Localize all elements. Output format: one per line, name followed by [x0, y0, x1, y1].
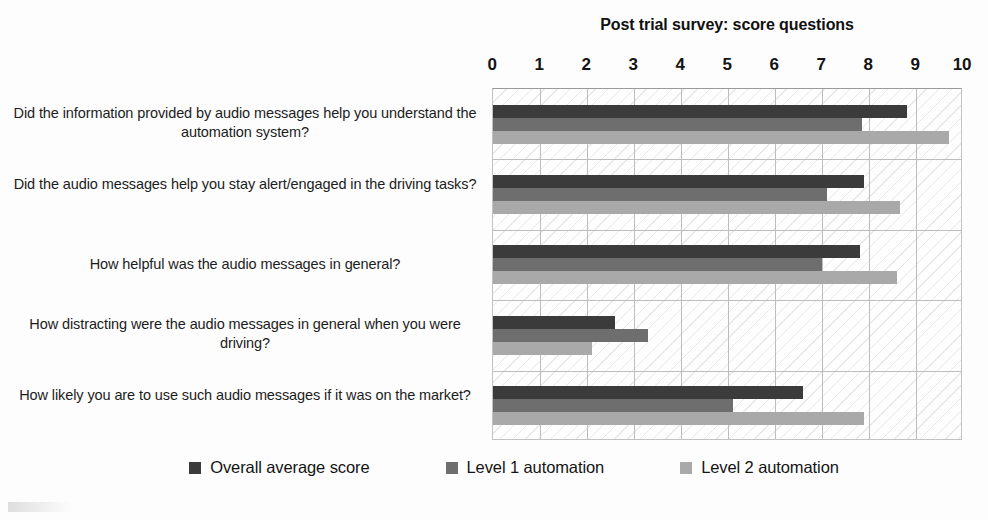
bar — [493, 201, 900, 214]
category-label: Did the audio messages help you stay ale… — [10, 175, 480, 194]
bar — [493, 399, 733, 412]
bar — [493, 258, 822, 271]
bar-group — [493, 159, 961, 229]
x-axis-tick-label: 6 — [769, 55, 778, 75]
bar — [493, 316, 615, 329]
x-axis-tick-label: 2 — [581, 55, 590, 75]
legend-item[interactable]: Level 2 automation — [680, 458, 839, 477]
bar — [493, 412, 864, 425]
category-label: How likely you are to use such audio mes… — [10, 386, 480, 405]
x-axis-tick-label: 0 — [487, 55, 496, 75]
legend-swatch-icon — [680, 462, 692, 474]
category-label: How helpful was the audio messages in ge… — [10, 255, 480, 274]
bar — [493, 329, 648, 342]
bar — [493, 175, 864, 188]
x-axis-tick-label: 1 — [534, 55, 543, 75]
legend-item[interactable]: Overall average score — [189, 458, 369, 477]
legend-swatch-icon — [189, 462, 201, 474]
x-axis-tick-label: 9 — [910, 55, 919, 75]
legend-swatch-icon — [446, 462, 458, 474]
legend-label: Overall average score — [210, 458, 369, 477]
scan-artifact — [8, 502, 72, 512]
category-label: How distracting were the audio messages … — [10, 315, 480, 353]
x-axis-tick-label: 8 — [863, 55, 872, 75]
x-axis-tick-labels: 012345678910 — [492, 55, 962, 81]
bar — [493, 131, 949, 144]
x-axis-tick-label: 10 — [953, 55, 971, 75]
bar — [493, 342, 592, 355]
category-label: Did the information provided by audio me… — [10, 104, 480, 142]
x-axis-tick-label: 7 — [816, 55, 825, 75]
bar-group — [493, 230, 961, 300]
chart-title: Post trial survey: score questions — [492, 16, 962, 34]
bar — [493, 118, 862, 131]
bar — [493, 386, 803, 399]
plot-area — [492, 88, 962, 440]
bar-group — [493, 371, 961, 441]
x-axis-tick-label: 4 — [675, 55, 684, 75]
category-axis-labels: Did the information provided by audio me… — [0, 88, 486, 440]
bar — [493, 245, 860, 258]
legend-label: Level 2 automation — [701, 458, 839, 477]
x-axis-tick-label: 3 — [628, 55, 637, 75]
chart-legend: Overall average scoreLevel 1 automationL… — [0, 458, 988, 477]
legend-label: Level 1 automation — [467, 458, 605, 477]
bar — [493, 271, 897, 284]
bar-group — [493, 89, 961, 159]
bar — [493, 188, 827, 201]
bar-group — [493, 300, 961, 370]
figure-root: Post trial survey: score questions 01234… — [0, 0, 988, 520]
bar — [493, 105, 907, 118]
legend-item[interactable]: Level 1 automation — [446, 458, 605, 477]
x-axis-tick-label: 5 — [722, 55, 731, 75]
